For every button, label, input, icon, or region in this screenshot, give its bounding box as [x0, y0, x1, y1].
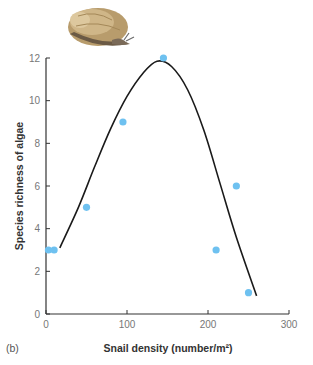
- data-point: [83, 204, 90, 211]
- panel-label: (b): [6, 342, 19, 354]
- y-tick-label: 10: [29, 95, 41, 106]
- points-layer: [45, 54, 252, 296]
- data-point: [213, 246, 220, 253]
- chart: 024681012 0100200300 Species richness of…: [0, 0, 313, 365]
- x-tick-label: 100: [119, 319, 136, 330]
- data-point: [160, 54, 167, 61]
- y-axis-title: Species richness of algae: [13, 122, 25, 251]
- y-tick-label: 4: [34, 223, 40, 234]
- x-ticks: 0100200300: [43, 310, 298, 330]
- y-tick-label: 2: [34, 266, 40, 277]
- x-tick-label: 300: [281, 319, 298, 330]
- y-tick-label: 0: [34, 309, 40, 320]
- data-point: [119, 118, 126, 125]
- data-point: [233, 182, 240, 189]
- x-tick-label: 200: [200, 319, 217, 330]
- x-tick-label: 0: [43, 319, 49, 330]
- y-ticks: 024681012: [29, 53, 50, 320]
- x-axis-title: Snail density (number/m²): [104, 342, 233, 354]
- curve-layer: [60, 61, 257, 296]
- data-point: [245, 289, 252, 296]
- y-tick-label: 12: [29, 53, 41, 64]
- data-point: [51, 246, 58, 253]
- y-tick-label: 6: [34, 181, 40, 192]
- fitted-curve-line: [60, 61, 257, 296]
- snail-image: [68, 8, 134, 46]
- axes: [46, 58, 289, 314]
- y-tick-label: 8: [34, 138, 40, 149]
